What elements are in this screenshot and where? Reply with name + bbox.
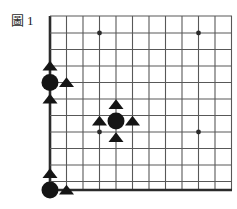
- star-point-1: [196, 31, 201, 36]
- stone-bottom-left: [42, 182, 59, 199]
- grid-horizontal-lines: [50, 16, 232, 190]
- stone-center: [108, 113, 125, 130]
- grid-vertical-lines: [50, 16, 232, 190]
- triangle-center-below: [109, 132, 124, 142]
- triangle-center-above: [109, 99, 124, 109]
- triangle-bottom-above: [43, 168, 58, 178]
- stone-left-upper: [42, 74, 59, 91]
- star-point-2: [97, 130, 102, 135]
- triangle-center-right: [125, 116, 140, 126]
- star-point-3: [196, 130, 201, 135]
- figure-screenshot: 圖 1: [0, 0, 237, 209]
- go-board-diagram: [0, 0, 237, 209]
- star-point-0: [97, 31, 102, 36]
- triangle-center-left: [92, 116, 107, 126]
